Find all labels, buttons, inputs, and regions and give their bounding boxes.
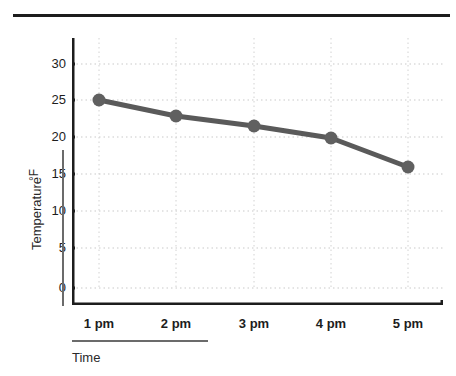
x-tick-label-5pm: 5 pm: [393, 316, 423, 331]
y-tick-label-20: 20: [40, 130, 66, 143]
data-point-1pm[interactable]: [93, 94, 106, 107]
vertical-gridlines: [99, 38, 408, 288]
y-axis-label-rule: [62, 150, 64, 306]
x-tick-label-3pm: 3 pm: [239, 316, 269, 331]
y-axis-title: Temperature: [29, 154, 44, 274]
data-point-4pm[interactable]: [325, 132, 338, 145]
data-point-2pm[interactable]: [170, 110, 183, 123]
x-axis-title: Time: [72, 350, 100, 365]
y-tick-label-25: 25: [40, 93, 66, 106]
y-tick-label-30: 30: [40, 57, 66, 70]
x-tick-label-4pm: 4 pm: [316, 316, 346, 331]
data-point-3pm[interactable]: [248, 120, 261, 133]
x-axis-label-rule: [72, 340, 208, 342]
line-chart-svg: [72, 38, 443, 305]
plot-area: [72, 38, 443, 305]
x-axis-tick-labels: 1 pm 2 pm 3 pm 4 pm 5 pm: [72, 316, 443, 336]
top-divider-rule: [13, 14, 450, 17]
y-axis-label-group: °F Temperature: [14, 150, 70, 308]
data-point-5pm[interactable]: [402, 161, 415, 174]
horizontal-gridlines: [72, 64, 443, 288]
x-axis-label-group: Time: [72, 340, 272, 374]
x-tick-label-1pm: 1 pm: [84, 316, 114, 331]
x-tick-label-2pm: 2 pm: [161, 316, 191, 331]
chart-page: 30 25 20 15 10 5 0 1 pm 2 pm 3 pm 4 pm 5…: [0, 0, 456, 376]
